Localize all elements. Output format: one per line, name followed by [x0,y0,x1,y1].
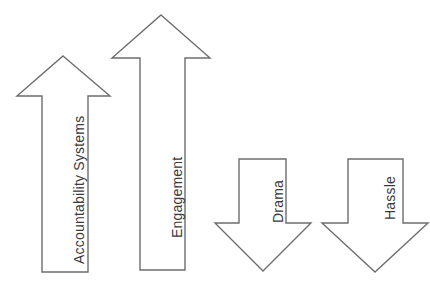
diagram-canvas: Accountability Systems Engagement Drama … [0,0,430,286]
arrow-label-drama: Drama [271,180,285,223]
arrow-shape-engagement[interactable] [112,15,210,270]
arrow-shape-hassle[interactable] [322,159,428,272]
arrow-label-engagement: Engagement [170,157,184,238]
arrow-shapes-group [0,0,430,286]
arrow-label-accountability-systems: Accountability Systems [72,116,86,264]
arrow-shape-drama[interactable] [215,159,311,271]
arrow-label-hassle: Hassle [383,176,397,220]
arrow-shape-accountability-systems[interactable] [17,56,110,272]
